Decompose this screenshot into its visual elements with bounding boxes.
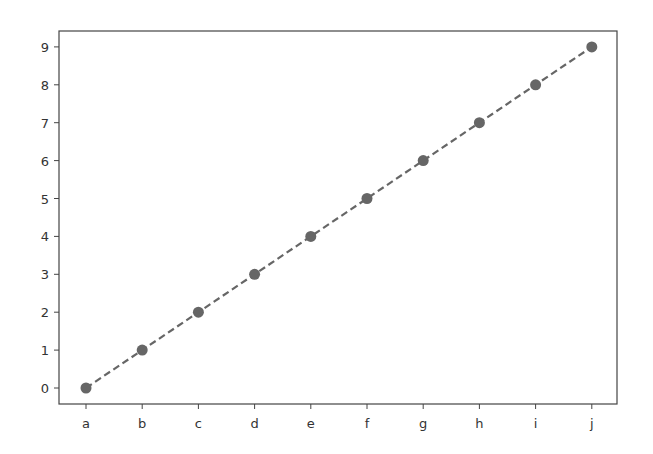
data-point-marker [586,41,597,52]
data-point-marker [474,117,485,128]
data-point-marker [362,193,373,204]
data-point-marker [530,79,541,90]
data-point-marker [137,345,148,356]
y-tick-label: 9 [41,40,49,55]
y-tick-label: 4 [41,229,49,244]
y-tick-label: 2 [41,305,49,320]
data-point-marker [305,231,316,242]
x-tick-label: i [534,416,538,431]
data-point-marker [193,307,204,318]
x-tick-label: d [250,416,258,431]
x-tick-label: j [589,416,594,431]
line-chart: 0123456789 abcdefghij [0,0,653,454]
x-tick-label: a [82,416,90,431]
x-tick-label: f [365,416,370,431]
data-point-marker [418,155,429,166]
y-tick-label: 0 [41,381,49,396]
y-tick-label: 8 [41,78,49,93]
x-tick-label: c [195,416,202,431]
data-point-marker [81,383,92,394]
x-tick-label: e [307,416,315,431]
y-axis: 0123456789 [41,40,59,396]
y-tick-label: 5 [41,192,49,207]
y-tick-label: 3 [41,267,49,282]
x-tick-label: h [475,416,483,431]
x-tick-label: b [138,416,146,431]
data-point-marker [249,269,260,280]
x-axis: abcdefghij [82,404,594,431]
y-tick-label: 7 [41,116,49,131]
y-tick-label: 1 [41,343,49,358]
y-tick-label: 6 [41,154,49,169]
x-tick-label: g [419,416,427,431]
